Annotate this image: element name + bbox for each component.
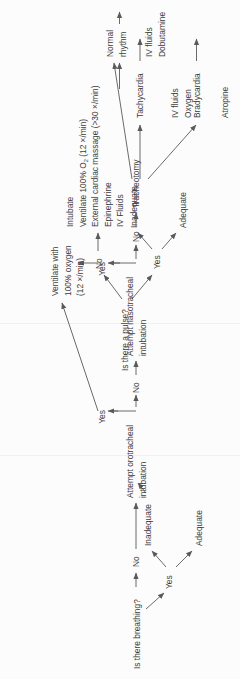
airway-algorithm-tail: Attempt nasotracheal intubation Yes No T… [0,0,240,679]
ventilate-line-1: Ventilate with [50,246,60,296]
airway-algorithm-tail-svg: Attempt nasotracheal intubation Yes No T… [0,0,240,679]
ventilate-line-3: (12 ×/min) [75,258,85,296]
nasotracheal-line-2: intubation [138,319,148,356]
tracheotomy-label: Tracheotomy [131,159,141,208]
ventilate-line-2: 100% oxygen [63,245,73,296]
edge-orotracheal-yes-to-ventilate [62,303,98,411]
nasotracheal-yes-label: Yes [97,262,107,276]
nasotracheal-no-label: No [131,231,141,242]
scanned-flowchart-page: Is there a pulse? No Yes Intubate Ventil… [0,0,240,679]
nasotracheal-line-1: Attempt nasotracheal [125,277,135,356]
